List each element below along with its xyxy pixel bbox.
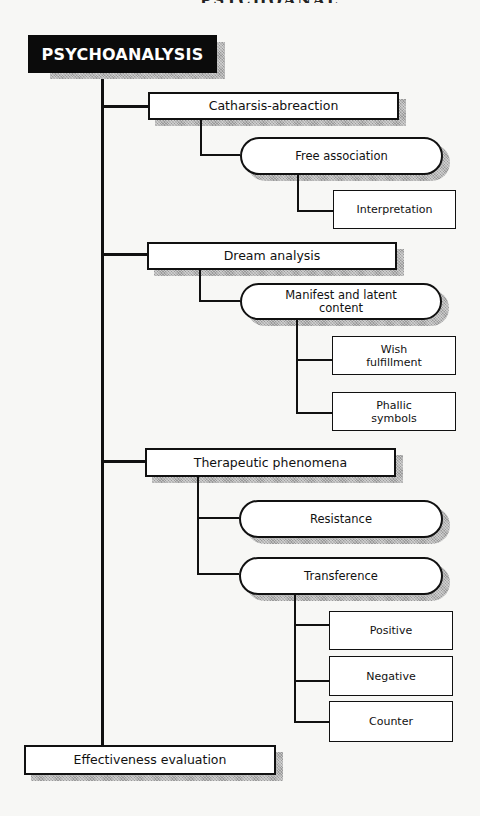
node-positive: Positive <box>329 611 453 650</box>
node-resistance: Resistance <box>239 500 443 538</box>
node-effectiveness-evaluation: Effectiveness evaluation <box>24 745 276 775</box>
node-transference: Transference <box>239 557 443 595</box>
node-free-association: Free association <box>240 137 443 175</box>
node-interpretation: Interpretation <box>333 190 456 229</box>
node-wish-fulfillment: Wish fulfillment <box>332 336 456 375</box>
connector-2-a <box>199 270 201 302</box>
root-node: PSYCHOANALYSIS <box>28 35 217 73</box>
connector-3-c <box>197 573 239 575</box>
connector-3-g <box>294 721 329 723</box>
connector-3-b <box>197 517 239 519</box>
connector-1-d <box>297 210 333 212</box>
connector-1-a <box>200 120 202 156</box>
connector-2-b <box>199 300 240 302</box>
branch-connector-3 <box>101 460 146 463</box>
branch-dream-analysis: Dream analysis <box>147 242 397 270</box>
node-phallic-symbols: Phallic symbols <box>332 392 456 431</box>
node-manifest-latent-content: Manifest and latent content <box>240 283 442 320</box>
cut-off-page-header: PSYCHOANALYSIS <box>200 0 340 3</box>
connector-3-e <box>294 624 329 626</box>
connector-3-d <box>294 595 296 722</box>
branch-catharsis-abreaction: Catharsis-abreaction <box>148 92 399 120</box>
branch-connector-2 <box>101 253 147 256</box>
branch-therapeutic-phenomena: Therapeutic phenomena <box>145 448 396 477</box>
connector-3-a <box>197 477 199 575</box>
connector-3-f <box>294 680 329 682</box>
trunk-line <box>101 72 104 746</box>
branch-connector-1 <box>101 105 148 108</box>
node-negative: Negative <box>329 656 453 696</box>
connector-2-d <box>296 359 332 361</box>
connector-2-c <box>296 320 298 413</box>
connector-2-e <box>296 412 332 414</box>
connector-1-c <box>297 175 299 211</box>
node-counter: Counter <box>329 701 453 742</box>
connector-1-b <box>200 154 240 156</box>
